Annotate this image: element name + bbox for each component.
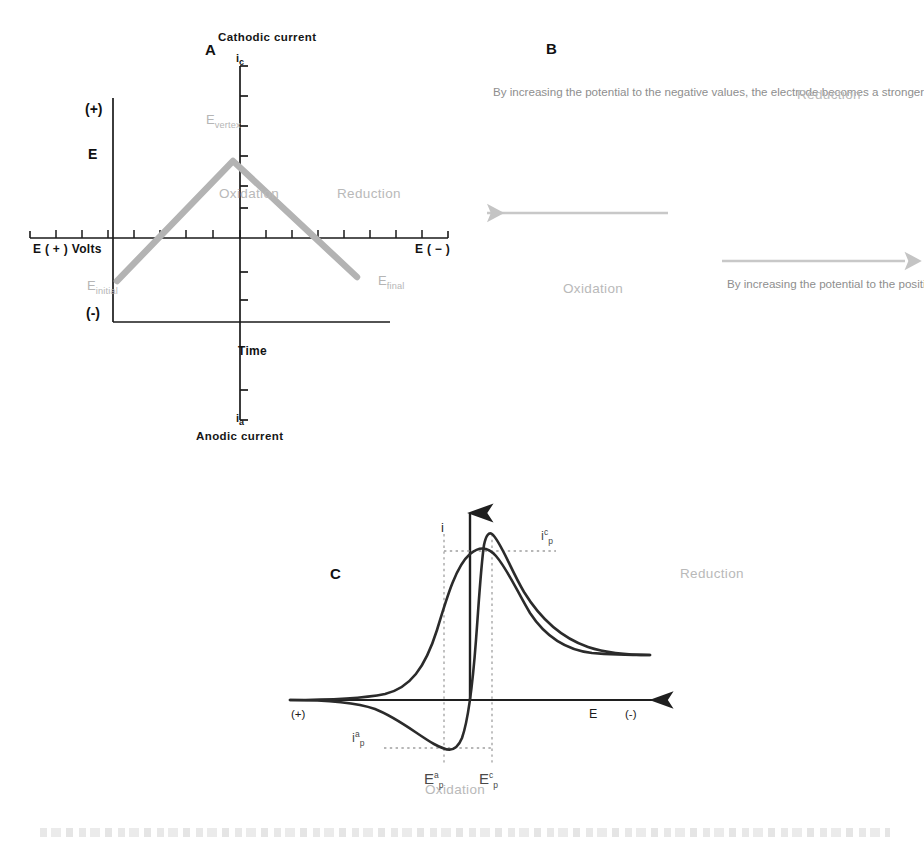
panel-c-epa-label: Eap [424, 770, 443, 790]
panel-c-reduction-label: Reduction [680, 566, 744, 582]
panel-c-potential-negative: (-) [625, 708, 637, 721]
figure-root: A Cathodic current ic ia Anodic current … [0, 0, 924, 842]
panel-c-graphics [0, 0, 924, 842]
panel-c-ipc-sub: p [548, 536, 553, 546]
panel-c-epa-base: E [424, 770, 434, 787]
panel-c-epc-sup: c [489, 770, 493, 780]
panel-c-epa-sub: p [439, 780, 444, 790]
panel-c-epc-sub: p [493, 780, 498, 790]
panel-c-potential-axis-label: E [589, 707, 597, 721]
panel-c-ipc-label: icp [541, 527, 553, 546]
panel-c-epa-sup: a [434, 770, 439, 780]
panel-c-current-axis-label: i [441, 521, 444, 536]
panel-c-letter: C [330, 565, 341, 582]
page-bottom-artifact [40, 828, 890, 837]
panel-c-ipa-label: iap [352, 729, 364, 748]
panel-c-epc-label: Ecp [479, 770, 498, 790]
panel-c-epc-base: E [479, 770, 489, 787]
panel-c-ipa-sub: p [360, 738, 365, 748]
panel-c-potential-positive: (+) [291, 708, 305, 721]
